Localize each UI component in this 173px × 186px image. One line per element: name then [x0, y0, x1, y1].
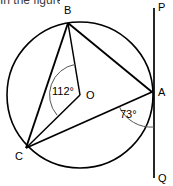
point-label-b: B [64, 4, 71, 16]
angle-label-73: 73° [120, 108, 137, 120]
point-label-c: C [15, 150, 23, 162]
angle-label-112: 112° [52, 85, 74, 97]
chord-ba [68, 23, 152, 92]
geometry-figure: B C A P Q O 112° 73° In the figure, the … [0, 0, 173, 186]
point-label-q: Q [158, 172, 167, 184]
geometry-canvas: B C A P Q O 112° 73° [0, 0, 173, 186]
point-label-p: P [158, 1, 165, 13]
center-label-o: O [86, 89, 95, 101]
point-label-a: A [158, 86, 166, 98]
